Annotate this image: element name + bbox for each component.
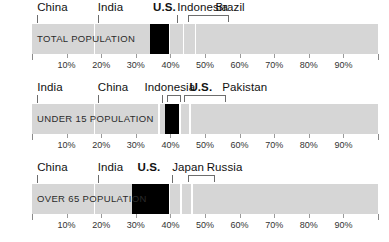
axis-tick-label: 10% (58, 220, 76, 230)
axis-tick (343, 214, 344, 218)
country-label: U.S. (189, 80, 212, 94)
axis-tick (343, 54, 344, 58)
bar-segment-highlight (165, 104, 179, 134)
axis-tick-label: 30% (127, 220, 145, 230)
axis-tick (343, 134, 344, 138)
country-label: Russia (207, 160, 243, 174)
axis-tick-label: 50% (196, 140, 214, 150)
leader-tick-icon (162, 95, 163, 103)
axis-tick (67, 54, 68, 58)
axis-tick (101, 54, 102, 58)
bar-segment-highlight (150, 24, 169, 54)
axis-tick-label: 20% (92, 140, 110, 150)
country-label: China (98, 80, 129, 94)
bar-segment-divider (179, 104, 181, 134)
leader-bracket-icon (184, 95, 226, 102)
bar-caption: OVER 65 POPULATION (37, 193, 147, 204)
axis-tick (274, 54, 275, 58)
bar-segment-divider (158, 104, 160, 134)
bar-segment-divider (169, 24, 171, 54)
country-label: Japan (172, 160, 204, 174)
axis-tick-label: 50% (196, 60, 214, 70)
leader-tick-icon (37, 175, 38, 183)
axis-tick-label: 80% (300, 60, 318, 70)
population-share-chart-figure: ChinaIndiaU.S.IndonesiaBrazilTOTAL POPUL… (0, 0, 389, 242)
axis-tick-label: 90% (334, 140, 352, 150)
axis-tick-label: 60% (231, 60, 249, 70)
axis-tick (136, 214, 137, 218)
country-label: Pakistan (222, 80, 267, 94)
axis-tick (67, 134, 68, 138)
bar-caption: UNDER 15 POPULATION (37, 113, 154, 124)
bar-segment-divider (169, 184, 171, 214)
axis-tick (101, 134, 102, 138)
axis-end-tick (378, 214, 379, 220)
chart-panel: ChinaIndiaU.S.JapanRussiaOVER 65 POPULAT… (0, 160, 389, 238)
chart-panel: IndiaChinaIndonesiaU.S.PakistanUNDER 15 … (0, 80, 389, 158)
axis-tick (205, 54, 206, 58)
axis-tick-label: 40% (161, 60, 179, 70)
leader-tick-icon (98, 175, 99, 183)
axis-tick (240, 214, 241, 218)
country-label: Indonesia (144, 80, 195, 94)
axis-end-tick (378, 134, 379, 140)
country-label: China (37, 0, 68, 14)
stacked-bar: TOTAL POPULATION (0, 24, 389, 54)
axis-tick-label: 20% (92, 60, 110, 70)
axis-tick-label: 70% (265, 220, 283, 230)
axis-tick-label: 60% (231, 220, 249, 230)
axis-tick-label: 90% (334, 60, 352, 70)
leader-bracket-icon (188, 175, 216, 182)
axis-tick-label: 30% (127, 60, 145, 70)
bar-segment-divider (195, 24, 197, 54)
axis-tick (240, 54, 241, 58)
axis-tick-label: 40% (161, 140, 179, 150)
axis-tick (274, 134, 275, 138)
leader-bracket-icon (188, 15, 230, 22)
axis-tick-label: 10% (58, 60, 76, 70)
axis-tick-label: 70% (265, 140, 283, 150)
axis-tick (205, 214, 206, 218)
axis-end-tick (32, 214, 33, 220)
leader-tick-icon (172, 175, 173, 183)
country-label: U.S. (153, 0, 176, 14)
axis-tick (136, 134, 137, 138)
country-label: India (37, 80, 62, 94)
country-label: India (98, 160, 123, 174)
axis-tick (67, 214, 68, 218)
axis-tick (240, 134, 241, 138)
x-axis: 10%20%30%40%50%60%70%80%90% (0, 54, 389, 76)
x-axis: 10%20%30%40%50%60%70%80%90% (0, 134, 389, 156)
axis-tick-label: 50% (196, 220, 214, 230)
axis-tick-label: 40% (161, 220, 179, 230)
country-label: U.S. (138, 160, 161, 174)
axis-tick (101, 214, 102, 218)
axis-tick-label: 80% (300, 220, 318, 230)
stacked-bar: UNDER 15 POPULATION (0, 104, 389, 134)
bar-segment-divider (183, 24, 185, 54)
axis-tick (170, 54, 171, 58)
axis-tick-label: 20% (92, 220, 110, 230)
bar-segment-divider (191, 184, 193, 214)
chart-panel: ChinaIndiaU.S.IndonesiaBrazilTOTAL POPUL… (0, 0, 389, 78)
leader-tick-icon (98, 15, 99, 23)
axis-tick-label: 60% (231, 140, 249, 150)
axis-tick-label: 90% (334, 220, 352, 230)
axis-tick (205, 134, 206, 138)
axis-tick-label: 80% (300, 140, 318, 150)
country-label: China (37, 160, 68, 174)
bar-segment-divider (189, 104, 191, 134)
axis-tick (309, 134, 310, 138)
axis-end-tick (32, 134, 33, 140)
axis-tick-label: 70% (265, 60, 283, 70)
leader-tick-icon (177, 15, 178, 23)
axis-end-tick (32, 54, 33, 60)
axis-tick (170, 214, 171, 218)
axis-tick (170, 134, 171, 138)
leader-bracket-icon (167, 95, 181, 102)
axis-end-tick (378, 54, 379, 60)
stacked-bar: OVER 65 POPULATION (0, 184, 389, 214)
bar-caption: TOTAL POPULATION (37, 33, 135, 44)
axis-tick-label: 30% (127, 140, 145, 150)
axis-tick-label: 10% (58, 140, 76, 150)
